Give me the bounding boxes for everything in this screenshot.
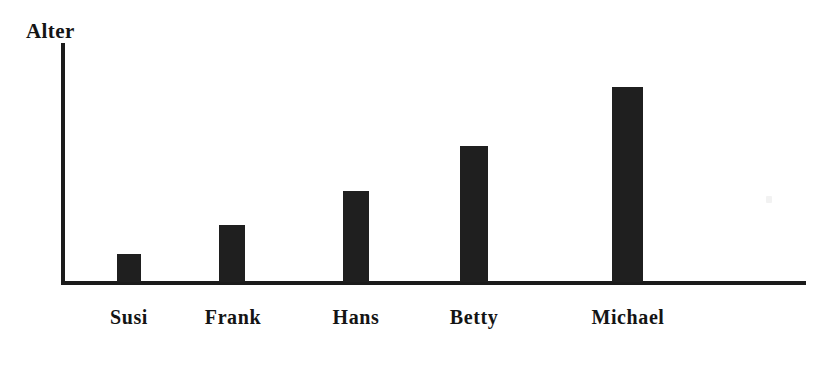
- bar-hans: [343, 191, 369, 282]
- x-tick-label-michael: Michael: [562, 306, 694, 329]
- x-tick-label-susi: Susi: [92, 306, 166, 329]
- x-tick-label-frank: Frank: [193, 306, 273, 329]
- x-tick-label-betty: Betty: [431, 306, 517, 329]
- bar-chart-figure: Alter Susi Frank Hans Betty Michael: [0, 0, 825, 380]
- bar-michael: [612, 87, 643, 282]
- bar-frank: [219, 225, 245, 282]
- plot-area: Susi Frank Hans Betty Michael: [0, 0, 825, 380]
- bar-susi: [117, 254, 141, 282]
- x-tick-label-hans: Hans: [316, 306, 396, 329]
- bar-betty: [460, 146, 488, 282]
- scan-artifact: [766, 196, 772, 203]
